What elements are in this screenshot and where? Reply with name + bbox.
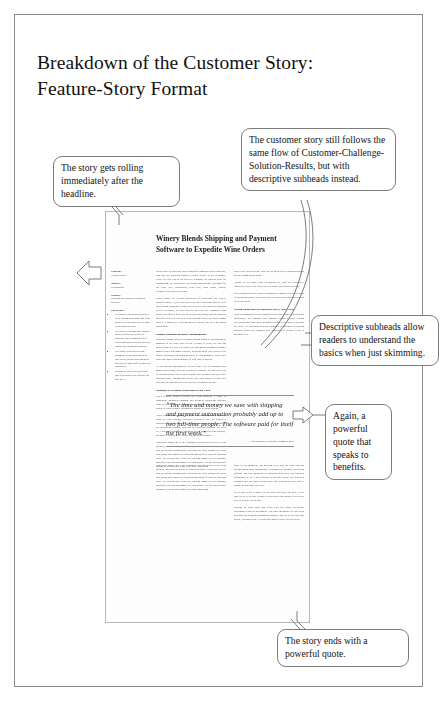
page-title: Breakdown of the Customer Story: Feature…: [37, 50, 387, 102]
body-paragraph: With an automated process handling credi…: [234, 313, 304, 337]
sample-document-mockup: Winery Blends Shipping and Payment Softw…: [105, 211, 310, 623]
list-item: The winery projects that club shipments …: [115, 350, 151, 369]
document-page: Winery Blends Shipping and Payment Softw…: [106, 212, 309, 622]
sidebar-value-solution: Shipping and payment automation software: [111, 297, 151, 305]
body-paragraph: Savings on labor costs and credit card f…: [234, 506, 304, 522]
pull-quote-attribution: —Sue Sorensen, President, Oregon Winery: [166, 440, 294, 443]
callout-subheads-text: Descriptive subheads allow readers to un…: [319, 321, 425, 358]
body-paragraph: Today, under the second generation of le…: [156, 297, 226, 329]
callout-headline-text: The story gets rolling immediately after…: [61, 162, 143, 199]
body-paragraph: back to the CRM system. There are no ste…: [234, 270, 304, 278]
figure-page: Breakdown of the Customer Story: Feature…: [14, 14, 423, 687]
body-paragraph: Shipping volume touches its highest duri…: [156, 338, 226, 362]
body-paragraph: 'Thanks to the tight CRM integration, th…: [234, 281, 304, 289]
callout-powerful-quote: Again, a powerful quote that speaks to b…: [325, 404, 392, 480]
document-subhead-left-1: Manual Shipping Becomes Unmanageable: [156, 333, 226, 337]
document-sidebar: Company: Oregon Winery Industry: Winemak…: [111, 270, 151, 383]
sidebar-value-industry: Winemaking: [111, 286, 151, 290]
callout-flow: The customer story still follows the sam…: [241, 128, 396, 191]
page-title-line-2: Feature-Story Format: [37, 76, 387, 102]
body-paragraph: With a spirit of adventure and a passion…: [156, 270, 226, 294]
list-item: Savings on labor costs and credit card f…: [115, 370, 151, 382]
document-footer-left: Employees simply go to the customer's ac…: [156, 464, 226, 495]
callout-subheads: Descriptive subheads allow readers to un…: [311, 315, 439, 366]
document-column-right: back to the CRM system. There are no ste…: [234, 270, 304, 340]
sidebar-results-list: The winery was marked orders as extra-co…: [111, 313, 151, 382]
arrow-pointer-left: [77, 261, 101, 285]
list-item: The ability to run multiple charges in n…: [115, 330, 151, 349]
body-paragraph: More at 300 members, and growing every d…: [234, 464, 304, 488]
body-paragraph: 'It was getting unmanageable to have jus…: [156, 365, 226, 385]
callout-headline: The story gets rolling immediately after…: [53, 156, 180, 207]
document-subhead-left-2: Shipping & Payment Processing in One Cli…: [156, 389, 226, 393]
document-subhead-right: Saving Thousands on Merchant Fees, Labor…: [234, 308, 304, 312]
callout-flow-text: The customer story still follows the sam…: [249, 134, 385, 184]
callout-ending-quote-text: The story ends with a powerful quote.: [285, 635, 368, 659]
body-paragraph: 'We're able to get a handle on our wine …: [234, 491, 304, 503]
document-closing-quote: More at 300 members, and growing every d…: [234, 464, 304, 525]
page-title-line-1: Breakdown of the Customer Story:: [37, 52, 313, 73]
body-paragraph: Sue Sorensen says the team has dramatica…: [234, 292, 304, 304]
callout-powerful-quote-text: Again, a powerful quote that speaks to b…: [333, 410, 371, 472]
document-headline: Winery Blends Shipping and Payment Softw…: [156, 234, 304, 255]
document-pull-quote: “The time and money we save with shippin…: [166, 395, 294, 447]
body-paragraph: Employees simply go to the customer's ac…: [156, 464, 226, 492]
list-item: The winery was marked orders as extra-co…: [115, 313, 151, 329]
sidebar-value-company: Oregon Winery: [111, 274, 151, 278]
pull-quote-text: “The time and money we save with shippin…: [166, 400, 294, 437]
callout-ending-quote: The story ends with a powerful quote.: [277, 629, 409, 667]
